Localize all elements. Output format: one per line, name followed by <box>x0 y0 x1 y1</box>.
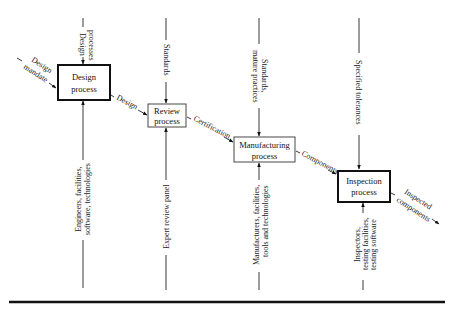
inspection-output-arrow <box>432 219 439 224</box>
design-control-label-2: processes <box>87 30 96 61</box>
manufacturing-output-line-start <box>296 151 300 153</box>
design-output-line-start <box>111 95 114 97</box>
idef0-diagram: Design processes Design mandate Design p… <box>0 0 454 311</box>
inspection-control-label: Specified tolerances <box>354 60 363 125</box>
manufacturing-mechanism-label-2: tools and technologies <box>261 185 270 257</box>
design-input-arrow <box>49 83 56 88</box>
manufacturing-output-label: Components <box>300 149 340 176</box>
design-control-label-1: Design <box>78 33 87 56</box>
review-output-label: Certification <box>192 114 232 141</box>
design-output-arrow <box>138 110 147 115</box>
review-to-manufacturing-flow: Certification <box>187 114 233 142</box>
review-mechanism-label: Expert review panel <box>162 184 171 249</box>
manufacturing-to-inspection-flow: Components <box>296 149 340 176</box>
review-process-label-1: Review <box>154 106 181 116</box>
manufacturing-process-group: Standards, mature practices Manufacturin… <box>234 18 295 290</box>
design-process-box[interactable] <box>58 65 110 100</box>
manufacturing-control-label-2: mature practices <box>251 50 260 103</box>
review-process-label-2: process <box>154 116 180 126</box>
design-mechanism-label-2: software, technologies <box>83 163 92 235</box>
review-process-group: Standards Review process Expert review p… <box>148 18 186 290</box>
design-input-line-start <box>17 58 22 61</box>
design-mechanism-label-1: Engineers, facilities, <box>74 166 83 232</box>
manufacturing-control-label-1: Standards, <box>260 59 269 93</box>
design-process-group: Design processes Design mandate Design p… <box>17 18 110 288</box>
inspection-mechanism-label-3: testing software <box>369 219 378 270</box>
review-control-label: Standards <box>162 44 171 76</box>
manufacturing-process-label-1: Manufacturing <box>239 140 290 150</box>
design-process-label-2: process <box>71 84 97 94</box>
inspection-process-group: Specified tolerances Inspection process … <box>338 18 390 290</box>
inspection-process-label-2: process <box>351 187 377 197</box>
inspection-output-flow: Inspected components <box>391 187 439 224</box>
review-output-line-start <box>187 117 191 119</box>
inspection-process-label-1: Inspection <box>346 176 382 186</box>
inspection-output-line-start <box>391 193 395 195</box>
manufacturing-mechanism-label-1: Manufacturers, facilities, <box>252 185 261 265</box>
design-to-review-flow: Design <box>111 93 147 115</box>
design-output-label: Design <box>115 93 139 112</box>
manufacturing-process-label-2: process <box>252 151 278 161</box>
design-process-label-1: Design <box>72 72 97 82</box>
